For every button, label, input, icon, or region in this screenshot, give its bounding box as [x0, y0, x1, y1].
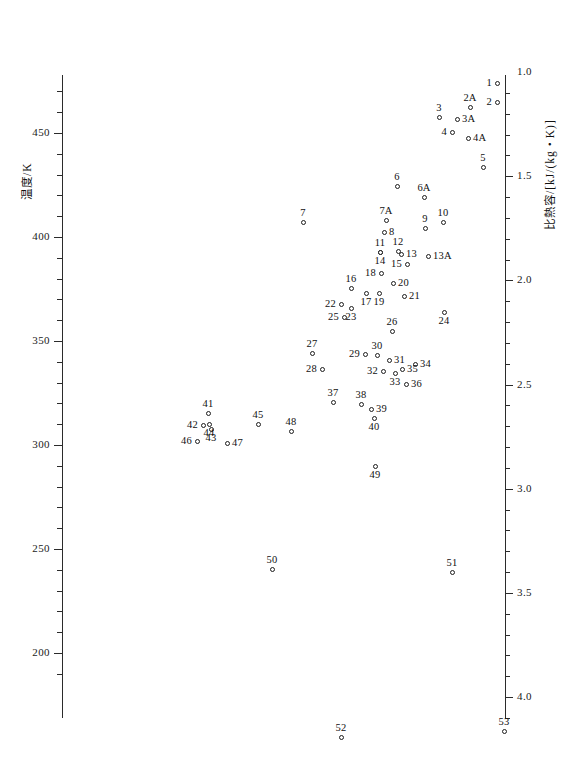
data-point: [441, 220, 446, 225]
right-axis-minor-tick: [505, 114, 510, 115]
data-point-label: 35: [407, 364, 418, 375]
left-axis-minor-tick: [57, 611, 62, 612]
data-point-label: 3A: [462, 114, 475, 125]
right-axis-minor-tick: [505, 322, 510, 323]
data-point: [400, 367, 405, 372]
left-axis-minor-tick: [57, 216, 62, 217]
data-point-label: 27: [307, 339, 318, 350]
data-point: [405, 262, 410, 267]
right-axis-minor-tick: [505, 301, 510, 302]
left-axis-minor-tick: [57, 591, 62, 592]
data-point: [391, 281, 396, 286]
left-axis-major-tick: [54, 445, 62, 446]
data-point-label: 14: [375, 256, 386, 267]
data-point: [495, 100, 500, 105]
data-point-label: 15: [391, 259, 402, 270]
data-point-label: 23: [346, 312, 357, 323]
data-point-label: 42: [187, 420, 198, 431]
data-point: [450, 130, 455, 135]
right-axis-major-tick: [505, 280, 513, 281]
data-point-label: 44: [204, 428, 215, 439]
data-point-label: 7: [300, 208, 305, 219]
left-axis-minor-tick: [57, 403, 62, 404]
right-axis-major-tick: [505, 385, 513, 386]
data-point: [320, 367, 325, 372]
left-axis-minor-tick: [57, 487, 62, 488]
left-axis-tick-label: 450: [22, 127, 50, 138]
data-point: [375, 353, 380, 358]
data-point: [369, 407, 374, 412]
data-point: [349, 306, 354, 311]
right-axis-minor-tick: [505, 614, 510, 615]
right-axis-minor-tick: [505, 676, 510, 677]
left-axis-minor-tick: [57, 91, 62, 92]
data-point-label: 37: [328, 388, 339, 399]
data-point: [379, 271, 384, 276]
scatter-plot-figure: 4504003503002502001.01.52.02.53.03.54.0 …: [0, 0, 567, 784]
data-point-label: 45: [253, 410, 264, 421]
data-point-label: 7A: [379, 206, 392, 217]
data-point-label: 52: [336, 723, 347, 734]
data-point-label: 31: [394, 355, 405, 366]
data-point-label: 41: [203, 399, 214, 410]
data-point-label: 48: [286, 417, 297, 428]
data-point-label: 33: [390, 377, 401, 388]
right-axis-major-tick: [505, 697, 513, 698]
left-axis-minor-tick: [57, 466, 62, 467]
data-point-label: 3: [436, 103, 441, 114]
data-point-label: 16: [346, 274, 357, 285]
data-point-label: 51: [447, 558, 458, 569]
data-point: [372, 416, 377, 421]
data-point: [206, 411, 211, 416]
data-point: [195, 439, 200, 444]
left-axis-minor-tick: [57, 528, 62, 529]
left-axis-tick-label: 400: [22, 231, 50, 242]
data-point-label: 18: [365, 268, 376, 279]
data-point-label: 2A: [463, 93, 476, 104]
data-point-label: 10: [438, 208, 449, 219]
right-axis-tick-label: 1.5: [517, 170, 532, 181]
left-axis-major-tick: [54, 341, 62, 342]
data-point: [384, 218, 389, 223]
data-point: [404, 382, 409, 387]
data-point: [342, 315, 347, 320]
left-axis-minor-tick: [57, 112, 62, 113]
right-axis-minor-tick: [505, 93, 510, 94]
left-axis-minor-tick: [57, 175, 62, 176]
data-point: [437, 115, 442, 120]
data-point: [373, 464, 378, 469]
data-point-label: 25: [328, 312, 339, 323]
right-axis-minor-tick: [505, 530, 510, 531]
right-axis-minor-tick: [505, 218, 510, 219]
data-point-label: 13A: [433, 251, 452, 262]
data-point: [359, 402, 364, 407]
data-point-label: 21: [409, 291, 420, 302]
data-point: [225, 441, 230, 446]
data-point: [256, 422, 261, 427]
left-axis-tick-label: 250: [22, 543, 50, 554]
left-axis-tick-label: 200: [22, 647, 50, 658]
data-point: [289, 429, 294, 434]
data-point: [468, 105, 473, 110]
left-axis-minor-tick: [57, 632, 62, 633]
data-point: [381, 369, 386, 374]
data-point-label: 22: [325, 299, 336, 310]
right-axis-tick-label: 2.5: [517, 379, 532, 390]
data-point: [378, 250, 383, 255]
data-point-label: 1: [487, 78, 492, 89]
data-point-label: 32: [367, 366, 378, 377]
left-axis-major-tick: [54, 133, 62, 134]
left-axis-minor-tick: [57, 154, 62, 155]
data-point-label: 46: [181, 436, 192, 447]
left-axis-tick-label: 350: [22, 335, 50, 346]
data-point-label: 9: [422, 214, 427, 225]
right-axis-minor-tick: [505, 426, 510, 427]
right-axis-minor-tick: [505, 572, 510, 573]
right-axis-major-tick: [505, 489, 513, 490]
left-axis-line: [62, 75, 63, 718]
data-point-label: 38: [356, 390, 367, 401]
right-axis-minor-tick: [505, 197, 510, 198]
data-point-label: 49: [370, 470, 381, 481]
data-point-label: 20: [398, 278, 409, 289]
data-point: [502, 729, 507, 734]
